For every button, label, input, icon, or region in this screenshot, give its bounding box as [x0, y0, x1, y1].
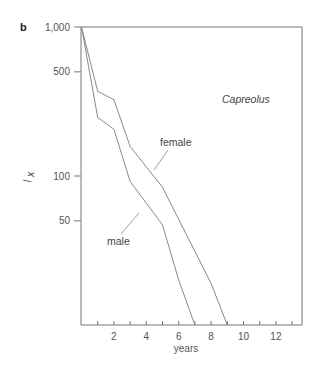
x-axis-label: years — [174, 343, 198, 354]
series-line-female — [82, 27, 228, 325]
y-tick-label: 1,000 — [45, 22, 70, 33]
y-tick-label: 100 — [53, 171, 70, 182]
series-line-male — [82, 27, 195, 325]
y-axis-label: l x — [21, 171, 36, 182]
male-label: male — [107, 235, 130, 247]
x-tick-label: 12 — [270, 331, 282, 342]
y-axis-label-main: l — [21, 179, 33, 182]
y-tick-label: 50 — [59, 215, 71, 226]
data-series — [82, 27, 228, 325]
y-tick-label: 500 — [53, 66, 70, 77]
female-label: female — [160, 136, 192, 148]
female-leader-line — [154, 150, 168, 170]
x-tick-label: 2 — [111, 331, 117, 342]
y-axis-label-sub: x — [24, 171, 36, 178]
male-leader-line — [121, 213, 139, 234]
x-tick-label: 10 — [238, 331, 250, 342]
y-axis-ticks: 1,00050010050 — [45, 22, 81, 227]
x-tick-label: 4 — [144, 331, 150, 342]
x-tick-label: 6 — [176, 331, 182, 342]
x-tick-label: 8 — [208, 331, 214, 342]
plot-frame — [81, 27, 302, 325]
panel-label: b — [20, 21, 27, 33]
species-annotation: Capreolus — [222, 93, 271, 105]
axes-box — [81, 27, 302, 325]
survivorship-chart: b 1,00050010050 24681012 Capreolus femal… — [0, 0, 315, 372]
